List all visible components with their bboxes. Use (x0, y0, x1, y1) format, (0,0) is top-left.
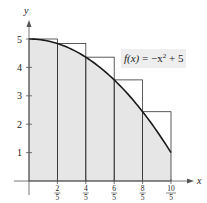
y-tick-label: 1 (17, 147, 22, 158)
svg-text:f(x) = −x2 + 5: f(x) = −x2 + 5 (124, 52, 184, 65)
x-tick-numerator: 10 (167, 184, 175, 193)
x-tick-denominator: 5 (84, 193, 88, 202)
x-tick-numerator: 8 (141, 184, 145, 193)
x-tick-denominator: 5 (112, 193, 116, 202)
x-tick-numerator: 4 (84, 184, 88, 193)
fx-label: f(x) (124, 52, 140, 65)
x-axis-arrow-icon (187, 179, 194, 184)
y-axis-arrow-icon (27, 20, 32, 27)
x-tick-numerator: 6 (112, 184, 116, 193)
y-tick-label: 3 (17, 90, 22, 101)
x-tick-numerator: 2 (56, 184, 60, 193)
y-tick-label: 4 (17, 62, 22, 73)
riemann-sum-diagram: x y 12345 25456585105 f(x) = −x2 + 5 (0, 0, 207, 203)
y-axis-label: y (23, 5, 29, 16)
y-tick-label: 2 (17, 119, 22, 130)
x-tick-denominator: 5 (169, 193, 173, 202)
x-tick-denominator: 5 (141, 193, 145, 202)
x-ticks: 25456585105 (54, 179, 176, 202)
x-axis-label: x (196, 175, 202, 186)
label-pointer (112, 66, 121, 74)
fx-tail: + 5 (166, 52, 184, 64)
function-label: f(x) = −x2 + 5 (112, 49, 186, 74)
x-tick-denominator: 5 (56, 193, 60, 202)
fx-eq: = −x (139, 52, 163, 64)
y-tick-label: 5 (17, 34, 22, 45)
